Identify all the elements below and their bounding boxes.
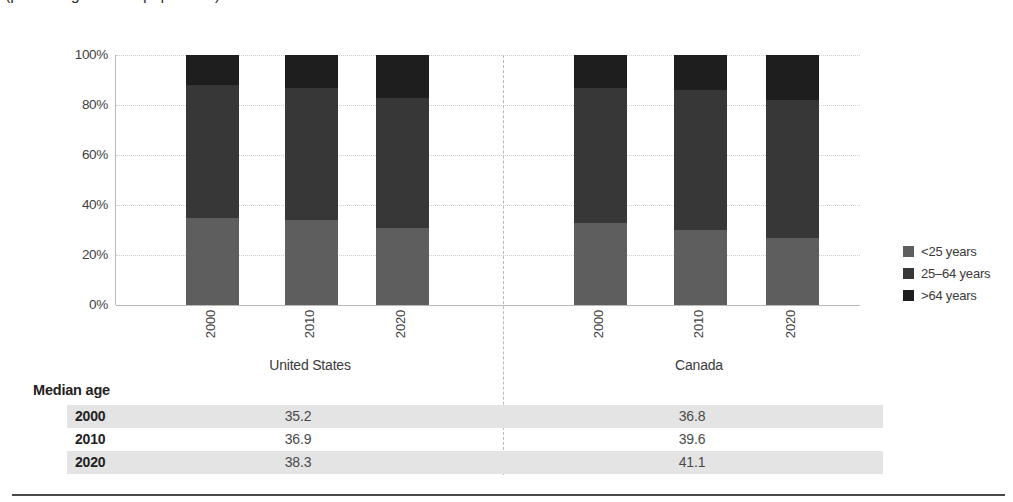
legend: <25 years 25–64 years >64 years [903,244,990,303]
bar-segment-united-states-2020-series-2 [376,55,429,98]
legend-item-25-64: 25–64 years [903,266,990,281]
legend-label-25-64: 25–64 years [921,266,990,281]
x-tick-us-2020: 2020 [393,310,409,354]
bar-segment-canada-2020-series-0 [766,238,819,306]
legend-swatch-over-64-icon [903,290,914,301]
bar-united-states-2000 [186,55,239,305]
bar-segment-united-states-2010-series-2 [285,55,338,88]
table-cell-us-2000: 35.2 [248,405,348,428]
table-cell-ca-2010: 39.6 [642,428,742,451]
legend-item-under-25: <25 years [903,244,990,259]
y-tick-60: 60% [40,147,108,162]
table-cell-us-2010: 36.9 [248,428,348,451]
table-cell-us-2020: 38.3 [248,451,348,474]
legend-label-over-64: >64 years [921,288,977,303]
bar-canada-2000 [574,55,627,305]
table-cell-ca-2000: 36.8 [642,405,742,428]
table-row-2020: 2020 38.3 41.1 [67,451,883,474]
table-row-2000: 2000 35.2 36.8 [67,405,883,428]
bar-segment-canada-2000-series-2 [574,55,627,88]
x-tick-ca-2010: 2010 [691,310,707,354]
table-row-2010: 2010 36.9 39.6 [67,428,883,451]
bar-united-states-2020 [376,55,429,305]
legend-label-under-25: <25 years [921,244,977,259]
plot-area [115,55,860,305]
bar-segment-canada-2020-series-2 [766,55,819,100]
gridline-0 [116,305,860,306]
y-tick-100: 100% [40,47,108,62]
bar-canada-2010 [674,55,727,305]
group-label-united-states: United States [210,357,410,373]
bottom-rule [12,494,1005,496]
bar-segment-canada-2010-series-2 [674,55,727,90]
x-tick-us-2010: 2010 [302,310,318,354]
legend-swatch-25-64-icon [903,268,914,279]
bar-segment-united-states-2010-series-1 [285,88,338,221]
x-tick-ca-2020: 2020 [783,310,799,354]
y-tick-20: 20% [40,247,108,262]
bar-segment-canada-2000-series-1 [574,88,627,223]
bar-segment-united-states-2010-series-0 [285,220,338,305]
table-title: Median age [33,382,110,398]
bar-segment-united-states-2020-series-1 [376,98,429,228]
table-row-year: 2010 [75,428,135,451]
bar-united-states-2010 [285,55,338,305]
table-row-year: 2000 [75,405,135,428]
clipped-subtitle: (percentage of total population) [5,0,255,5]
bar-segment-united-states-2000-series-0 [186,218,239,306]
bar-canada-2020 [766,55,819,305]
bar-segment-united-states-2000-series-1 [186,85,239,218]
median-age-table: 2000 35.2 36.8 2010 36.9 39.6 2020 38.3 … [67,405,883,474]
bar-segment-canada-2010-series-0 [674,230,727,305]
legend-swatch-under-25-icon [903,246,914,257]
legend-item-over-64: >64 years [903,288,990,303]
bar-segment-canada-2000-series-0 [574,223,627,306]
x-tick-ca-2000: 2000 [591,310,607,354]
y-tick-0: 0% [40,297,108,312]
y-tick-40: 40% [40,197,108,212]
bar-segment-united-states-2000-series-2 [186,55,239,85]
bar-segment-canada-2010-series-1 [674,90,727,230]
table-cell-ca-2020: 41.1 [642,451,742,474]
x-tick-us-2000: 2000 [203,310,219,354]
y-tick-80: 80% [40,97,108,112]
subtitle-text: (percentage of total population) [5,0,255,4]
bar-segment-canada-2020-series-1 [766,100,819,238]
figure: (percentage of total population) 100% 80… [0,0,1013,502]
table-row-year: 2020 [75,451,135,474]
group-label-canada: Canada [599,357,799,373]
bar-segment-united-states-2020-series-0 [376,228,429,306]
